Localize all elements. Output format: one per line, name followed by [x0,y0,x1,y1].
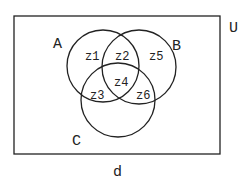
region-z4: z4 [114,76,128,90]
region-z2: z2 [115,50,129,64]
region-z6: z6 [136,89,150,103]
region-z5: z5 [149,50,163,64]
universe-label: U [229,20,238,37]
set-a-label: A [53,36,62,53]
set-b-label: B [172,38,181,55]
caption-label: d [113,164,122,181]
region-z1: z1 [85,50,99,64]
venn-diagram: U A B C z1 z2 z5 z4 z3 z6 d [0,0,250,188]
region-z3: z3 [90,89,104,103]
set-c-label: C [72,133,81,150]
